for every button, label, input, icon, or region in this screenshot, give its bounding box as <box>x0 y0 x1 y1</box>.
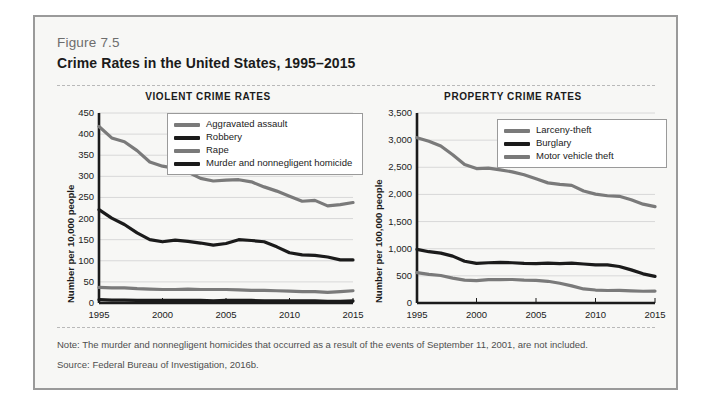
x-tick-label: 2000 <box>455 309 499 320</box>
y-axis-label: Number per 100,000 people <box>373 179 384 303</box>
x-tick-label: 2005 <box>514 309 558 320</box>
panel-title-property: PROPERTY CRIME RATES <box>363 91 663 102</box>
legend-label: Murder and nonnegligent homicide <box>206 157 352 168</box>
y-tick-label: 450 <box>53 107 94 118</box>
legend-swatch-icon <box>504 142 530 146</box>
figure-number: Figure 7.5 <box>57 35 120 50</box>
y-tick-label: 350 <box>53 149 94 160</box>
x-tick-label: 2010 <box>268 309 312 320</box>
x-tick-label: 2010 <box>574 309 618 320</box>
divider-top <box>57 85 655 86</box>
y-tick-label: 3,000 <box>363 134 412 145</box>
legend-item: Aggravated assault <box>174 118 356 129</box>
legend-swatch-icon <box>174 123 200 127</box>
panel-title-violent: VIOLENT CRIME RATES <box>53 91 363 102</box>
legend-swatch-icon <box>174 136 200 140</box>
y-tick-label: 0 <box>363 297 412 308</box>
x-tick-label: 2015 <box>633 309 677 320</box>
legend-label: Aggravated assault <box>206 118 287 129</box>
legend-swatch-icon <box>174 162 200 166</box>
legend-swatch-icon <box>504 129 530 133</box>
legend-label: Larceny-theft <box>536 124 591 135</box>
x-tick-label: 2005 <box>204 309 248 320</box>
legend-label: Burglary <box>536 137 571 148</box>
legend-item: Larceny-theft <box>504 124 660 135</box>
figure-note: Note: The murder and nonnegligent homici… <box>57 339 588 350</box>
legend-swatch-icon <box>504 155 530 159</box>
y-axis-label: Number per 10,000 people <box>65 185 76 303</box>
legend-item: Robbery <box>174 131 356 142</box>
y-tick-label: 400 <box>53 128 94 139</box>
figure-title: Crime Rates in the United States, 1995–2… <box>57 55 355 71</box>
divider-bottom <box>57 327 655 328</box>
legend-label: Robbery <box>206 131 242 142</box>
x-tick-label: 2000 <box>141 309 185 320</box>
y-tick-label: 300 <box>53 170 94 181</box>
legend-item: Murder and nonnegligent homicide <box>174 157 356 168</box>
legend-item: Rape <box>174 144 356 155</box>
legend-item: Motor vehicle theft <box>504 150 660 161</box>
legend-item: Burglary <box>504 137 660 148</box>
chart-legend: Larceny-theftBurglaryMotor vehicle theft <box>497 119 667 168</box>
y-tick-label: 2,500 <box>363 161 412 172</box>
y-tick-label: 3,500 <box>363 107 412 118</box>
x-tick-label: 1995 <box>395 309 439 320</box>
figure-frame: Figure 7.5 Crime Rates in the United Sta… <box>33 15 678 390</box>
figure-source: Source: Federal Bureau of Investigation,… <box>57 359 259 370</box>
legend-label: Rape <box>206 144 229 155</box>
y-tick-label: 2,000 <box>363 188 412 199</box>
legend-label: Motor vehicle theft <box>536 150 614 161</box>
legend-swatch-icon <box>174 149 200 153</box>
panel-property-crime: PROPERTY CRIME RATES 05001,0001,5002,000… <box>363 91 663 321</box>
y-tick-label: 1,000 <box>363 243 412 254</box>
x-tick-label: 1995 <box>77 309 121 320</box>
panel-violent-crime: VIOLENT CRIME RATES 05010015020025030035… <box>53 91 363 321</box>
y-tick-label: 500 <box>363 270 412 281</box>
y-tick-label: 1,500 <box>363 216 412 227</box>
chart-legend: Aggravated assaultRobberyRapeMurder and … <box>167 113 363 175</box>
